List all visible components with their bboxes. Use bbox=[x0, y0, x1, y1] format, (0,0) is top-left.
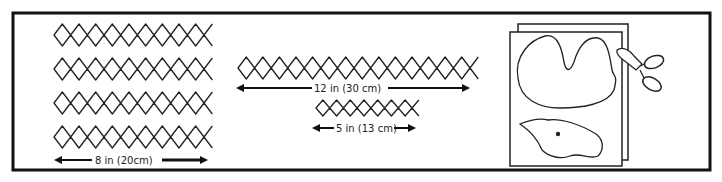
strip-outline bbox=[54, 126, 212, 148]
strip-outline bbox=[54, 92, 212, 114]
strip-outline bbox=[54, 58, 212, 80]
arrow-head-right bbox=[462, 84, 470, 92]
illustration: 8 in (20cm) 12 in (30 cm) 5 in (13 cm) bbox=[0, 0, 722, 182]
strip-outline bbox=[316, 100, 419, 116]
strip-outline bbox=[54, 24, 212, 46]
scissor-handle-top bbox=[643, 53, 666, 71]
measure-12in-label: 12 in (30 cm) bbox=[314, 83, 381, 94]
paper-strip bbox=[238, 57, 478, 79]
illustration-canvas: 8 in (20cm) 12 in (30 cm) 5 in (13 cm) bbox=[0, 0, 722, 182]
left-strip-group bbox=[54, 24, 212, 148]
paper-strip bbox=[54, 58, 212, 80]
paper-strip bbox=[54, 92, 212, 114]
measure-5in: 5 in (13 cm) bbox=[312, 123, 416, 134]
arrow-head-left bbox=[312, 124, 320, 132]
animal-eye bbox=[556, 132, 560, 136]
arrow-head-left bbox=[54, 156, 62, 164]
paper-strip bbox=[54, 24, 212, 46]
arrow-head-left bbox=[236, 84, 244, 92]
measure-8in-label: 8 in (20cm) bbox=[95, 155, 153, 166]
arrow-head-right bbox=[408, 124, 416, 132]
paper-strip bbox=[316, 100, 419, 116]
measure-5in-label: 5 in (13 cm) bbox=[336, 123, 397, 134]
strip-outline bbox=[238, 57, 478, 79]
measure-8in: 8 in (20cm) bbox=[54, 155, 208, 166]
arrow-head-right bbox=[200, 156, 208, 164]
paper-stack bbox=[510, 24, 628, 166]
paper-strip bbox=[54, 126, 212, 148]
measure-12in: 12 in (30 cm) bbox=[236, 83, 470, 94]
